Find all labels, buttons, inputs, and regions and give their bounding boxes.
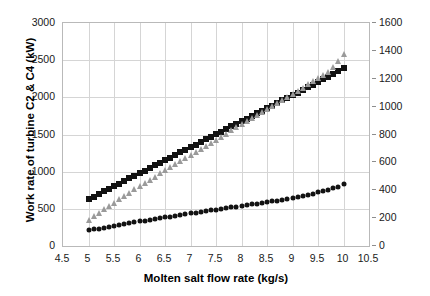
y-axis-right-tick-label: 1200 <box>379 73 402 84</box>
data-point <box>325 69 331 75</box>
gridline-horizontal <box>63 172 369 173</box>
y-axis-right-tick-label: 1400 <box>379 45 402 56</box>
data-point <box>330 64 336 70</box>
y-axis-right-tick-label: 800 <box>379 128 397 139</box>
x-axis-tick-label: 10.5 <box>358 253 378 264</box>
x-axis-tick-label: 7.5 <box>208 253 223 264</box>
data-point <box>341 51 347 57</box>
x-axis-tick-label: 7 <box>187 253 193 264</box>
y-axis-right-tick-mark <box>372 217 376 218</box>
y-axis-left-title: Work rate of turbine C2 & C4 (kW) <box>24 5 36 255</box>
y-axis-right-tick-label: 200 <box>379 212 397 223</box>
data-point <box>341 65 347 71</box>
y-axis-right-tick-mark <box>372 50 376 51</box>
x-axis-tick-label: 5.5 <box>106 253 121 264</box>
x-axis-tick-label: 4.5 <box>55 253 70 264</box>
x-axis-tick-label: 8.5 <box>259 253 274 264</box>
y-axis-right-tick-label: 1000 <box>379 100 402 111</box>
chart-container: 050010001500200025003000 020040060080010… <box>0 0 430 296</box>
data-point <box>335 58 341 64</box>
x-axis-tick-label: 9 <box>289 253 295 264</box>
plot-area <box>62 22 370 247</box>
gridline-horizontal <box>63 97 369 98</box>
y-axis-right-tick-mark <box>372 189 376 190</box>
x-axis-tick-label: 5 <box>85 253 91 264</box>
y-axis-right-tick-mark <box>372 106 376 107</box>
data-point <box>341 182 346 187</box>
x-axis-tick-label: 8 <box>238 253 244 264</box>
y-axis-right-tick-label: 0 <box>379 240 385 251</box>
y-axis-right-tick-label: 600 <box>379 156 397 167</box>
x-axis-title: Molten salt flow rate (kg/s) <box>62 272 370 284</box>
y-axis-right-tick-mark <box>372 161 376 162</box>
y-axis-right-tick-mark <box>372 245 376 246</box>
x-axis-tick-label: 10 <box>337 253 349 264</box>
y-axis-right-tick-mark <box>372 134 376 135</box>
x-axis-tick-label: 6 <box>136 253 142 264</box>
y-axis-right-tick-label: 400 <box>379 184 397 195</box>
y-axis-right-tick-mark <box>372 78 376 79</box>
y-axis-right-tick-label: 1600 <box>379 17 402 28</box>
gridline-horizontal <box>63 60 369 61</box>
x-axis-tick-label: 6.5 <box>157 253 172 264</box>
y-axis-right-tick-mark <box>372 22 376 23</box>
x-axis-tick-label: 9.5 <box>310 253 325 264</box>
